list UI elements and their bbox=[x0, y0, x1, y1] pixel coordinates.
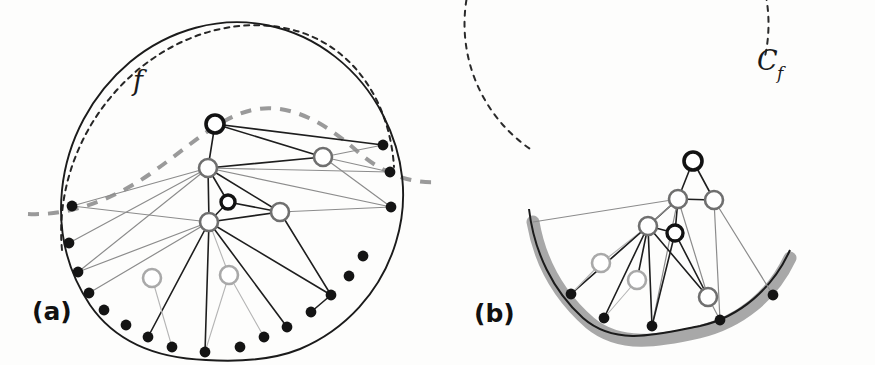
panel-a-boundary-vertex bbox=[99, 305, 110, 316]
figure-svg: f (a) C f (b) bbox=[0, 0, 875, 365]
panel-a-boundary-vertex bbox=[306, 307, 317, 318]
panel-a-graph-node bbox=[314, 148, 332, 166]
panel-b-graph-node bbox=[592, 254, 610, 272]
panel-a-boundary-vertex bbox=[200, 347, 211, 358]
panel-label-a: (a) bbox=[32, 297, 72, 326]
panel-b-boundary-vertex bbox=[647, 321, 658, 332]
panel-b-boundary-vertex bbox=[566, 289, 577, 300]
panel-a-graph-node bbox=[271, 203, 289, 221]
panel-a-boundary-vertex bbox=[64, 238, 75, 249]
panel-a-boundary-vertex bbox=[259, 332, 270, 343]
panel-a-graph-node bbox=[143, 269, 161, 287]
panel-a-graph-node bbox=[220, 266, 238, 284]
panel-a-boundary-vertex bbox=[358, 251, 369, 262]
panel-a-graph-node bbox=[221, 195, 235, 209]
panel-a-boundary-vertex bbox=[386, 202, 397, 213]
panel-a-graph-node bbox=[199, 159, 217, 177]
panel-a-boundary-vertex bbox=[167, 342, 178, 353]
panel-b-graph-node bbox=[684, 152, 702, 170]
panel-b-graph-node bbox=[669, 190, 687, 208]
panel-a-boundary-vertex bbox=[235, 342, 246, 353]
panel-a-boundary-vertex bbox=[326, 290, 337, 301]
panel-a-boundary-vertex bbox=[73, 267, 84, 278]
panel-a-boundary-vertex bbox=[378, 140, 389, 151]
panel-a-boundary-vertex bbox=[67, 201, 78, 212]
panel-a-boundary-vertex bbox=[84, 288, 95, 299]
panel-label-b: (b) bbox=[474, 299, 515, 328]
panel-b-boundary-vertex bbox=[599, 313, 610, 324]
panel-b-graph-node bbox=[705, 191, 723, 209]
panel-a-boundary-vertex bbox=[282, 322, 293, 333]
panel-b-boundary-vertex bbox=[715, 315, 726, 326]
panel-b-graph-node bbox=[628, 271, 646, 289]
panel-a-boundary-vertex bbox=[344, 271, 355, 282]
panel-b-graph-node bbox=[699, 288, 717, 306]
panel-a-boundary-vertex bbox=[385, 167, 396, 178]
panel-b-graph-node bbox=[667, 225, 683, 241]
panel-a-graph-node bbox=[200, 213, 218, 231]
figure-canvas: f (a) C f (b) bbox=[0, 0, 875, 365]
panel-a-graph-node bbox=[206, 115, 224, 133]
panel-a-boundary-vertex bbox=[121, 320, 132, 331]
panel-a-boundary-vertex bbox=[143, 332, 154, 343]
panel-b-graph-node bbox=[639, 217, 657, 235]
label-circle-c: C bbox=[757, 45, 778, 76]
panel-b-boundary-vertex bbox=[768, 290, 779, 301]
